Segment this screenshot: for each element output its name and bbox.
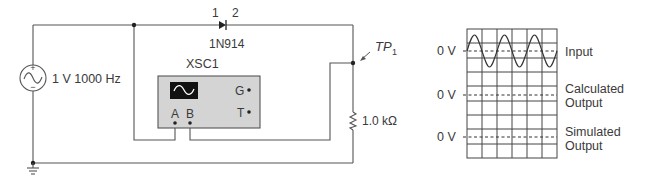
ground-icon	[27, 163, 39, 174]
test-point: TP 1	[360, 39, 397, 61]
minus-sign: −	[30, 82, 35, 92]
scope-pin-g-label: G	[235, 84, 244, 98]
resistor: 1.0 kΩ	[350, 112, 397, 130]
zero-label-input: 0 V	[437, 44, 456, 58]
scope-pin-t-label: T	[237, 106, 245, 120]
resistor-icon	[350, 112, 356, 130]
diode: 1 2 1N914	[209, 6, 245, 51]
scope-pin-g	[247, 88, 251, 92]
tp-label: TP	[375, 39, 392, 54]
zero-lines	[463, 51, 557, 137]
junction-dot-tp1	[351, 61, 355, 65]
scope-name: XSC1	[186, 57, 219, 71]
trace-label-calculated-1: Calculated	[565, 82, 624, 96]
trace-label-simulated-1: Simulated	[565, 125, 621, 139]
diode-part-label: 1N914	[209, 37, 245, 51]
circuit-diagram: + − 1 V 1000 Hz 1 2 1N914 XSC1 A B G T T…	[0, 0, 646, 181]
oscilloscope: XSC1 A B G T	[158, 57, 260, 128]
scope-pin-a-label: A	[171, 107, 179, 121]
plus-sign: +	[30, 63, 35, 73]
tp-subscript: 1	[392, 47, 397, 57]
trace-label-simulated-2: Output	[565, 139, 603, 153]
scope-pin-t	[247, 110, 251, 114]
junction-dot	[132, 23, 136, 27]
source-label: 1 V 1000 Hz	[52, 72, 121, 86]
scope-pin-a	[173, 121, 177, 125]
diode-pin2: 2	[232, 6, 239, 20]
trace-label-calculated-2: Output	[565, 96, 603, 110]
zero-label-simulated: 0 V	[437, 130, 456, 144]
scope-pin-b-label: B	[186, 107, 194, 121]
trace-label-input: Input	[565, 45, 593, 59]
diode-icon	[219, 21, 226, 29]
resistor-label: 1.0 kΩ	[362, 114, 397, 128]
scope-pin-b	[188, 121, 192, 125]
diode-pin1: 1	[212, 6, 219, 20]
ac-source: + − 1 V 1000 Hz	[20, 63, 121, 92]
zero-label-calculated: 0 V	[437, 88, 456, 102]
